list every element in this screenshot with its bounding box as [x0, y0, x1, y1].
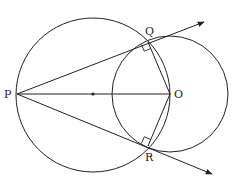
- segment-oq: [148, 42, 170, 94]
- label-p: P: [4, 88, 12, 101]
- ray-pr: [17, 94, 212, 174]
- segment-or: [148, 94, 170, 146]
- geometry-diagram: P Q O R: [0, 0, 234, 176]
- ray-pq: [17, 22, 204, 94]
- midpoint-dot: [91, 92, 94, 95]
- label-q: Q: [145, 25, 154, 38]
- label-o: O: [174, 88, 183, 101]
- label-r: R: [145, 151, 154, 164]
